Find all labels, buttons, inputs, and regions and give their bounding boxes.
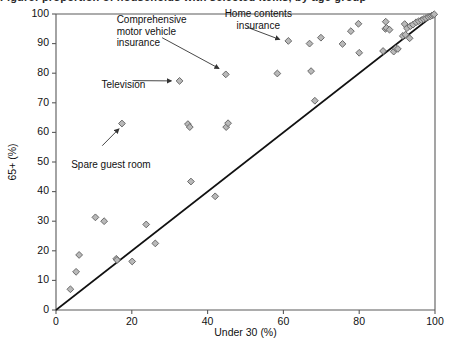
y-tick-label: 40 <box>37 184 49 196</box>
x-tick-label: 20 <box>126 315 138 327</box>
data-point-marker <box>306 40 313 47</box>
annotation-label-home-contents-insurance: Home contents insurance <box>225 8 292 31</box>
data-point-marker <box>119 120 126 127</box>
data-point-marker <box>382 18 389 25</box>
data-point-marker <box>101 218 108 225</box>
data-point-marker <box>222 71 229 78</box>
data-point-marker <box>356 49 363 56</box>
annotation-label-comprehensive-motor-vehicle-insurance: Comprehensive motor vehicle insurance <box>117 14 187 49</box>
data-point-marker <box>76 252 83 259</box>
y-tick-label: 80 <box>37 66 49 78</box>
x-axis-title: Under 30 (%) <box>214 326 276 338</box>
y-tick-label: 20 <box>37 244 49 256</box>
data-point-marker <box>285 38 292 45</box>
x-tick-label: 60 <box>278 315 290 327</box>
y-tick-label: 30 <box>37 214 49 226</box>
data-point-marker <box>347 28 354 35</box>
data-point-marker <box>308 68 315 75</box>
data-point-marker <box>92 214 99 221</box>
y-tick-label: 0 <box>43 303 49 315</box>
data-point-marker <box>188 178 195 185</box>
chart-canvas: 0102030405060708090100020406080100 Under… <box>0 0 452 361</box>
y-tick-label: 10 <box>37 273 49 285</box>
data-point-marker <box>311 97 318 104</box>
annotation-label-spare-guest-room: Spare guest room <box>71 159 151 171</box>
data-point-marker <box>67 286 74 293</box>
scatter-chart: Figure: proportion of households with se… <box>0 0 452 361</box>
annotation-leader-spare-guest-room <box>102 129 119 146</box>
data-point-marker <box>318 34 325 41</box>
data-point-marker <box>73 268 80 275</box>
data-point-marker <box>339 40 346 47</box>
y-tick-label: 90 <box>37 36 49 48</box>
x-tick-label: 80 <box>353 315 365 327</box>
y-axis-title: 65+ (%) <box>6 143 18 180</box>
y-tick-label: 60 <box>37 125 49 137</box>
y-tick-label: 50 <box>37 155 49 167</box>
data-point-marker <box>176 77 183 84</box>
data-points <box>67 11 438 293</box>
data-point-marker <box>143 221 150 228</box>
data-point-marker <box>274 70 281 77</box>
x-tick-label: 100 <box>426 315 444 327</box>
annotation-label-television: Television <box>101 79 145 91</box>
x-tick-label: 0 <box>53 315 59 327</box>
y-tick-label: 70 <box>37 96 49 108</box>
x-tick-label: 40 <box>202 315 214 327</box>
y-tick-label: 100 <box>31 7 49 19</box>
data-point-marker <box>355 20 362 27</box>
data-point-marker <box>152 240 159 247</box>
data-point-marker <box>129 258 136 265</box>
data-point-marker <box>212 193 219 200</box>
